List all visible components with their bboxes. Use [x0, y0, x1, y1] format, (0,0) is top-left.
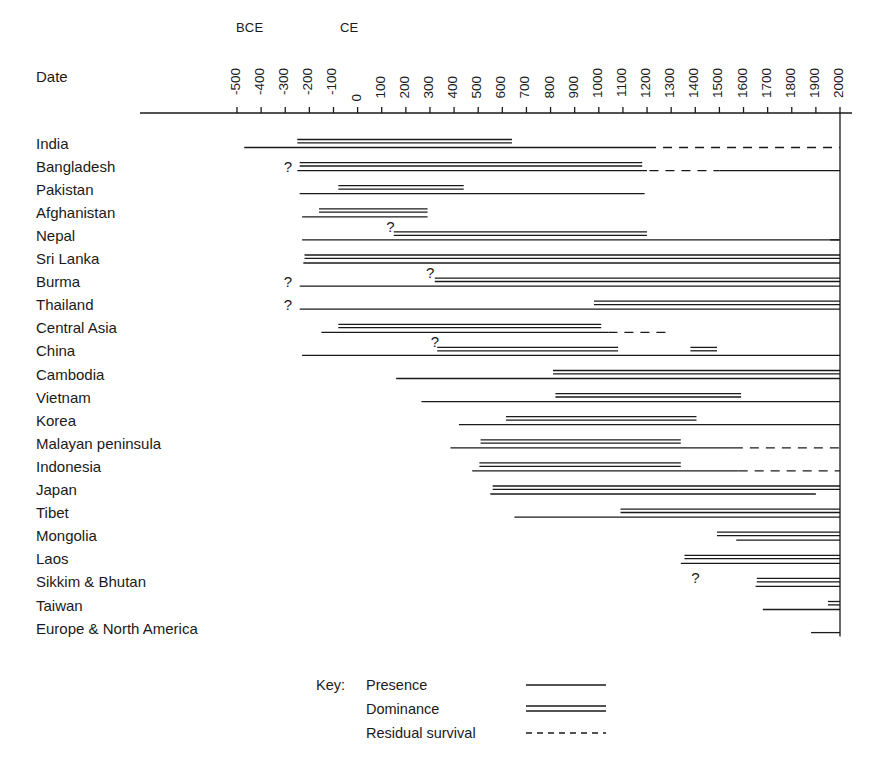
uncertainty-question-mark: ? — [431, 334, 439, 349]
uncertainty-question-mark: ? — [284, 297, 292, 312]
legend-swatch-dominance — [524, 700, 608, 718]
legend-swatch-residual — [524, 724, 608, 742]
uncertainty-question-mark: ? — [284, 274, 292, 289]
uncertainty-question-mark: ? — [386, 219, 394, 234]
uncertainty-question-mark: ? — [691, 570, 699, 585]
legend-swatch-presence — [524, 676, 608, 694]
timeline-chart: BCE CE Date -500-400-300-200-10001002003… — [0, 0, 884, 769]
legend-label-presence: Presence — [366, 677, 427, 693]
legend-key-label: Key: — [316, 677, 345, 693]
uncertainty-question-mark: ? — [284, 159, 292, 174]
uncertainty-question-mark: ? — [426, 265, 434, 280]
legend-label-dominance: Dominance — [366, 701, 439, 717]
legend-label-residual: Residual survival — [366, 725, 476, 741]
timeline-plot-area — [0, 0, 884, 769]
